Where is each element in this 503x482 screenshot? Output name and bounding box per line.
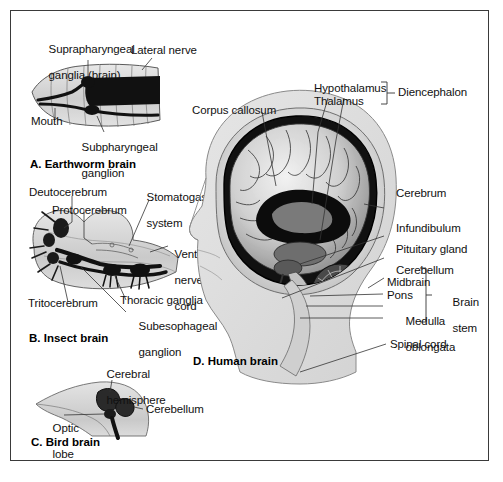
label-corpus-callosum: Corpus callosum (192, 104, 276, 117)
label-pons: Pons (387, 289, 413, 302)
human-drawing (0, 0, 503, 482)
label-hypothalamus: Hypothalamus (314, 82, 386, 95)
label-diencephalon: Diencephalon (398, 86, 467, 99)
label-pituitary-gland: Pituitary gland (396, 243, 467, 256)
panel-human: Corpus callosum Hypothalamus Thalamus Di… (0, 0, 503, 482)
figure-root: Suprapharyngeal ganglia (brain) Lateral … (0, 0, 503, 482)
brain-stem-line1: Brain (453, 296, 479, 308)
label-midbrain: Midbrain (387, 276, 430, 289)
label-thalamus: Thalamus (314, 95, 364, 108)
label-cerebrum: Cerebrum (396, 187, 446, 200)
caption-human: D. Human brain (193, 355, 278, 368)
label-spinal-cord: Spinal cord (390, 338, 446, 351)
brain-stem-line2: stem (453, 322, 478, 334)
label-infundibulum: Infundibulum (396, 222, 461, 235)
